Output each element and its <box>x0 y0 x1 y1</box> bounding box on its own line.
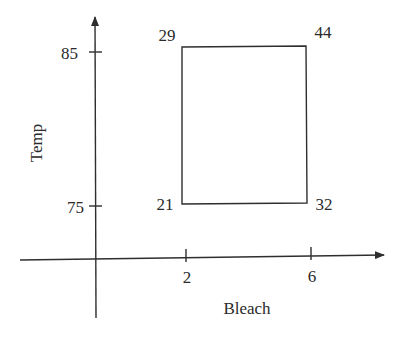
corner-value-bottom-right: 32 <box>316 195 333 214</box>
corner-value-top-right: 44 <box>315 23 333 42</box>
corner-value-bottom-left: 21 <box>157 195 174 214</box>
design-diagram: 85 75 2 6 Bleach Temp 29 44 21 32 <box>0 0 405 344</box>
design-square <box>182 46 307 204</box>
y-tick-label-85: 85 <box>61 44 78 63</box>
x-axis <box>20 255 384 260</box>
x-axis-label: Bleach <box>223 299 271 318</box>
corner-value-top-left: 29 <box>159 26 176 45</box>
y-tick-label-75: 75 <box>67 198 84 217</box>
x-tick-label-6: 6 <box>308 267 317 286</box>
x-tick-label-2: 2 <box>183 268 192 287</box>
y-axis-label: Temp <box>27 124 46 162</box>
y-axis <box>95 17 96 318</box>
